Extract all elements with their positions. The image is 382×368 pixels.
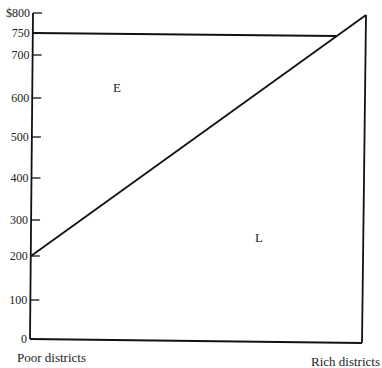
series-baseline: [30, 339, 362, 343]
region-label-e: E: [113, 80, 121, 95]
y-tick-label: 200: [10, 249, 28, 263]
y-ticks: $8007507006005004003002001000: [6, 6, 42, 346]
series-diagonal: [31, 15, 366, 256]
y-tick-label: 0: [21, 332, 27, 346]
y-axis-group: [30, 13, 33, 339]
y-tick-label: 400: [10, 171, 28, 185]
x-label-rich: Rich districts: [311, 354, 380, 368]
y-tick-label: 300: [10, 213, 28, 227]
x-label-poor: Poor districts: [17, 350, 86, 365]
region-label-l: L: [255, 230, 263, 245]
y-tick-label: 700: [12, 48, 30, 62]
series-right-edge: [362, 15, 366, 343]
chart: $8007507006005004003002001000 EL Poor di…: [0, 0, 382, 368]
y-tick-label: $800: [6, 6, 30, 20]
series-e: [33, 33, 336, 36]
y-tick-label: 500: [11, 130, 29, 144]
y-tick-label: 600: [11, 91, 29, 105]
x-labels: Poor districtsRich districts: [17, 350, 380, 368]
y-axis-line: [30, 13, 33, 339]
series-lines: [30, 15, 366, 343]
y-tick-label: 100: [9, 293, 27, 307]
y-tick-label: 750: [12, 26, 30, 40]
